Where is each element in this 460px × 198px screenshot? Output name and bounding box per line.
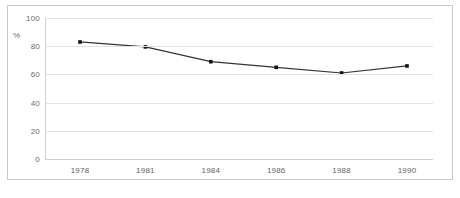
chart-figure: % 020406080100 197819811984198619881990 (0, 0, 460, 198)
x-tick-label: 1978 (71, 166, 90, 175)
gridline-60 (46, 74, 433, 75)
gridline-20 (46, 131, 433, 132)
data-point-1978 (78, 40, 82, 44)
plot-area (46, 18, 433, 159)
y-tick-label: 20 (31, 126, 40, 135)
y-tick-label: 40 (31, 98, 40, 107)
y-axis-tick-labels: 020406080100 (10, 18, 40, 159)
x-tick-label: 1981 (136, 166, 155, 175)
x-tick-label: 1984 (201, 166, 220, 175)
line-series (46, 18, 433, 159)
y-tick-label: 100 (26, 14, 40, 23)
data-point-1986 (274, 66, 278, 70)
x-tick-label: 1988 (332, 166, 351, 175)
gridline-40 (46, 103, 433, 104)
y-tick-label: 60 (31, 70, 40, 79)
data-point-1990 (405, 64, 409, 68)
x-tick-label: 1986 (267, 166, 286, 175)
gridline-100 (46, 18, 433, 19)
data-point-1984 (209, 60, 213, 64)
x-tick-label: 1990 (398, 166, 417, 175)
gridline-0 (46, 159, 433, 160)
y-tick-label: 0 (35, 155, 40, 164)
gridline-80 (46, 46, 433, 47)
y-tick-label: 80 (31, 42, 40, 51)
